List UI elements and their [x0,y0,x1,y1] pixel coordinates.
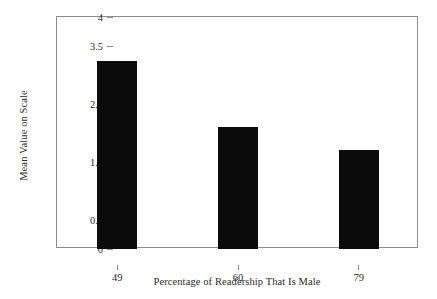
y-tick-label: 0 [57,242,103,257]
y-tick-label: 0.5 [57,213,103,228]
y-tick-label: 3.5 [57,39,103,54]
x-axis-title: Percentage of Readership That Is Male [56,276,418,287]
y-axis-title: Mean Value on Scale [18,51,29,221]
bar [339,150,379,249]
bar [218,127,258,249]
y-tick-label: 1 [57,184,103,199]
y-tick-mark [107,17,113,18]
y-tick-label: 1.5 [57,155,103,170]
y-tick-label: 2 [57,126,103,141]
y-tick-mark [107,46,113,47]
x-tick-mark [358,265,359,270]
y-tick-label: 2.5 [57,97,103,112]
y-tick-label: 4 [57,10,103,25]
x-tick-mark [117,265,118,270]
y-tick-label: 3 [57,68,103,83]
plot-area: 00.511.522.533.54 496079 [56,16,418,248]
x-tick-mark [238,265,239,270]
bar [97,61,137,250]
bar-chart: Mean Value on Scale 00.511.522.533.54 49… [0,0,437,299]
